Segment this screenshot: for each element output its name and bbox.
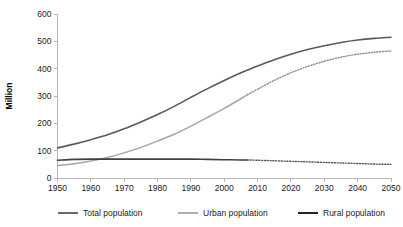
series-line-solid [58, 37, 392, 148]
y-axis-tick-labels: 0100200300400500600 [37, 9, 51, 183]
data-series-group [58, 37, 392, 165]
x-tick-label: 1960 [81, 183, 100, 193]
x-tick-label: 1970 [115, 183, 134, 193]
x-tick-label: 2040 [348, 183, 367, 193]
population-line-chart: 0100200300400500600 19501960197019801990… [0, 0, 403, 227]
x-tick-label: 1990 [181, 183, 200, 193]
y-axis-tick-marks [54, 14, 58, 178]
series-line-solid [58, 159, 248, 160]
y-tick-label: 600 [37, 9, 51, 19]
chart-canvas: 0100200300400500600 19501960197019801990… [0, 0, 403, 227]
x-tick-label: 2010 [248, 183, 267, 193]
legend-label: Rural population [323, 208, 385, 218]
y-tick-label: 300 [37, 91, 51, 101]
x-tick-label: 2030 [315, 183, 334, 193]
series-line-projection [248, 51, 391, 95]
y-tick-label: 200 [37, 118, 51, 128]
legend-label: Urban population [203, 208, 268, 218]
x-tick-label: 1950 [48, 183, 67, 193]
x-axis-tick-labels: 1950196019701980199020002010202020302040… [48, 183, 401, 193]
series-line-projection [248, 160, 391, 164]
y-tick-label: 100 [37, 146, 51, 156]
x-tick-label: 1980 [148, 183, 167, 193]
y-axis-title: Million [4, 83, 14, 110]
y-tick-label: 400 [37, 64, 51, 74]
x-tick-label: 2050 [382, 183, 401, 193]
y-tick-label: 0 [47, 173, 52, 183]
x-tick-label: 2000 [215, 183, 234, 193]
x-tick-label: 2020 [281, 183, 300, 193]
chart-legend: Total populationUrban populationRural po… [58, 208, 385, 218]
legend-label: Total population [83, 208, 143, 218]
series-line-solid [58, 95, 248, 166]
x-axis-tick-marks [58, 178, 392, 182]
y-tick-label: 500 [37, 36, 51, 46]
